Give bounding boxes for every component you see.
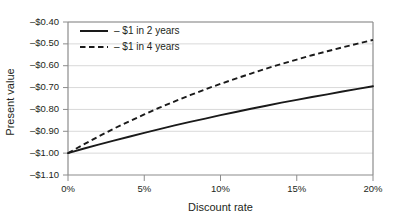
x-tick-label-4: 20% bbox=[363, 183, 383, 194]
y-tick-label-6: –$1.00 bbox=[30, 147, 59, 158]
y-tick-label-7: –$1.10 bbox=[30, 169, 59, 180]
legend-label-0: – $1 in 2 years bbox=[114, 25, 180, 36]
x-axis-title: Discount rate bbox=[188, 201, 253, 213]
y-tick-label-3: –$0.70 bbox=[30, 81, 59, 92]
x-tick-label-2: 10% bbox=[211, 183, 231, 194]
x-tick-label-0: 0% bbox=[61, 183, 75, 194]
x-tick-label-1: 5% bbox=[137, 183, 151, 194]
present-value-line-chart: –$0.40 –$0.50 –$0.60 –$0.70 –$0.80 –$0.9… bbox=[0, 0, 406, 223]
y-tick-label-4: –$0.80 bbox=[30, 103, 59, 114]
y-axis-title: Present value bbox=[4, 68, 16, 135]
x-tick-label-3: 15% bbox=[287, 183, 307, 194]
legend-label-1: – $1 in 4 years bbox=[114, 41, 180, 52]
y-tick-label-2: –$0.60 bbox=[30, 59, 59, 70]
y-tick-label-1: –$0.50 bbox=[30, 37, 59, 48]
y-tick-label-5: –$0.90 bbox=[30, 125, 59, 136]
y-tick-label-0: –$0.40 bbox=[30, 16, 59, 27]
chart-figure: –$0.40 –$0.50 –$0.60 –$0.70 –$0.80 –$0.9… bbox=[0, 0, 406, 223]
